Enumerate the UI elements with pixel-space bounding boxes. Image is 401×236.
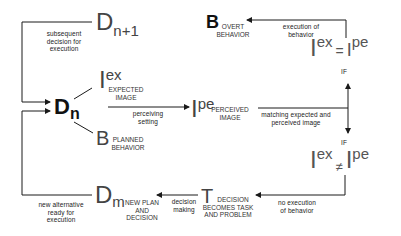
node-d-m: Dm	[95, 183, 125, 207]
label-matching: matching expected and perceived image	[258, 111, 334, 126]
d-n-subscript: n	[70, 105, 80, 122]
label-new-alternative: new alternative ready for execution	[36, 201, 86, 224]
node-d-n-plus-1: Dn+1	[96, 10, 139, 34]
label-overt-behavior: OVERT BEHAVIOR	[212, 23, 254, 38]
d-m-symbol: D	[95, 181, 112, 208]
i-pe-symbol: I	[191, 95, 198, 122]
edge-dn-bplanned	[74, 122, 93, 133]
edge-new-alternative	[22, 111, 92, 195]
label-task-problem: DECISION BECOMES TASK AND PROBLEM	[200, 196, 256, 219]
label-perceiving: perceiving setting	[128, 110, 168, 125]
node-d-n: Dn	[54, 94, 80, 120]
i-ex-superscript: ex	[106, 66, 122, 83]
label-expected-image: EXPECTED IMAGE	[106, 86, 146, 101]
i-ex-symbol: I	[99, 66, 106, 93]
d-n1-subscript: n+1	[113, 22, 138, 39]
equals-operator: =	[336, 43, 344, 59]
label-perceived-image: PERCEIVED IMAGE	[208, 106, 252, 121]
node-equal: Iex=Ipe	[310, 36, 368, 62]
label-decision-making: decision making	[170, 198, 198, 213]
label-new-plan: NEW PLAN AND DECISION	[124, 199, 160, 222]
d-m-subscript: m	[112, 193, 125, 210]
node-not-equal: Iex≠Ipe	[310, 148, 369, 172]
edge-no-execution	[256, 175, 345, 195]
label-if-top: IF	[341, 68, 347, 76]
label-subsequent: subsequent decision for execution	[36, 30, 92, 53]
label-no-execution: no execution of behavior	[272, 199, 322, 214]
not-equal-operator: ≠	[336, 159, 343, 174]
d-n1-symbol: D	[96, 8, 113, 35]
label-planned-behavior: PLANNED BEHAVIOR	[108, 136, 148, 151]
d-n-symbol: D	[54, 94, 70, 119]
